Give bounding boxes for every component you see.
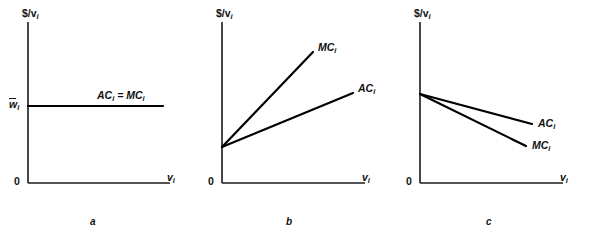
panel-a-y-axis-label: $/vi	[22, 8, 39, 20]
panel-a-curve-label-ac-mc: ACi = MCi	[97, 90, 145, 102]
panel-b-origin-label: 0	[208, 176, 214, 187]
panel-c-curve-label-mc-sub: i	[548, 144, 550, 153]
panel-a-x-axis-label: vi	[167, 172, 175, 184]
panel-c-origin-label: 0	[406, 176, 412, 187]
panel-b-line-ac	[222, 93, 353, 147]
panel-a-curve-label-ac: AC	[97, 89, 112, 101]
panel-c-line-ac	[420, 94, 532, 124]
panel-c-curve-label-mc-text: MC	[532, 139, 548, 151]
panel-c-y-axis-label-sub: i	[429, 12, 431, 21]
panel-a-curve-label-eq-mc: = MC	[114, 89, 142, 101]
panel-b-curve-label-ac-text: AC	[358, 82, 373, 94]
panel-c-y-axis-label: $/vi	[414, 8, 431, 20]
panel-c-curve-label-ac: ACi	[538, 118, 555, 130]
panel-b-curve-label-mc-sub: i	[334, 46, 336, 55]
panel-c-line-mc	[420, 94, 526, 146]
panel-b-curve-label-mc-text: MC	[318, 41, 334, 53]
panel-c-curve-label-ac-text: AC	[538, 117, 553, 129]
panel-b-caption: b	[286, 217, 292, 227]
panel-b-y-axis-label-text: $/v	[216, 7, 231, 19]
panel-b-x-axis-label: vi	[362, 172, 370, 184]
panel-a-wage-tick-sub: i	[17, 103, 19, 112]
panel-a-origin-label: 0	[14, 176, 20, 187]
panel-a-wage-tick-letter: w	[9, 99, 17, 110]
figure-container: $/vi 0 wi ACi = MCi vi a $/vi 0 MCi ACi …	[0, 0, 590, 245]
panel-a-y-axis-label-sub: i	[37, 12, 39, 21]
panel-c-curve-label-mc: MCi	[532, 140, 550, 152]
panel-b-curve-label-mc: MCi	[318, 42, 336, 54]
panel-b-curve-label-ac-sub: i	[373, 87, 375, 96]
panel-b-x-axis-label-sub: i	[368, 176, 370, 185]
panel-a-caption: a	[90, 217, 96, 227]
panel-b-y-axis-label-sub: i	[231, 12, 233, 21]
panel-b-curve-label-ac: ACi	[358, 83, 375, 95]
panel-b-line-mc	[222, 52, 313, 147]
figure-lines	[0, 0, 590, 245]
panel-c-x-axis-label-sub: i	[566, 176, 568, 185]
panel-c-x-axis-label: vi	[560, 172, 568, 184]
panel-a-wage-tick-label: wi	[9, 99, 19, 111]
panel-a-x-axis-label-sub: i	[173, 176, 175, 185]
panel-c-curve-label-ac-sub: i	[553, 122, 555, 131]
panel-a-curve-label-mc-sub: i	[143, 94, 145, 103]
panel-b-axes	[222, 22, 365, 183]
panel-c-axes	[420, 22, 563, 183]
panel-a-y-axis-label-text: $/v	[22, 7, 37, 19]
panel-b-y-axis-label: $/vi	[216, 8, 233, 20]
panel-c-caption: c	[486, 217, 492, 227]
panel-c-y-axis-label-text: $/v	[414, 7, 429, 19]
panel-a-axes	[28, 22, 170, 183]
